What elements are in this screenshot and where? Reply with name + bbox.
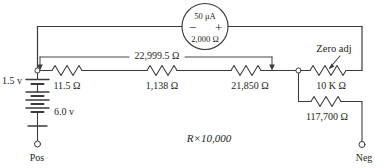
span-arrow-right — [269, 65, 275, 71]
meter-negative-sign: − — [189, 21, 196, 34]
terminal-neg-circle — [359, 142, 365, 148]
terminal-neg-label: Neg — [356, 153, 373, 163]
battery-6v-label: 6.0 v — [54, 107, 74, 117]
battery-1p5v-label: 1.5 v — [2, 76, 22, 86]
circuit-diagram-figure: 50 μA − + 2,000 Ω 22,999.5 Ω 1.5 v 6.0 v… — [0, 0, 387, 168]
resistor-21850-label: 21,850 Ω — [231, 81, 268, 91]
potentiometer-10k-label: 10 K Ω — [316, 81, 346, 91]
potentiometer-10k-symbol — [310, 66, 346, 76]
resistor-11-5-label: 11.5 Ω — [53, 81, 80, 91]
potentiometer-wiper-arrowhead — [329, 63, 335, 69]
terminal-pos-label: Pos — [30, 153, 44, 163]
span-total-resistance-label: 22,999.5 Ω — [135, 51, 180, 61]
resistor-21850-symbol — [231, 66, 261, 76]
resistor-11-5-symbol — [52, 66, 82, 76]
meter-current-label: 50 μA — [194, 12, 215, 21]
resistor-117700-label: 117,700 Ω — [306, 112, 348, 122]
junction-node-right — [296, 68, 301, 73]
resistor-1138-symbol — [147, 66, 177, 76]
meter-resistance-label: 2,000 Ω — [191, 35, 219, 44]
terminal-pos-circle — [35, 141, 41, 147]
junction-node-left — [35, 68, 40, 73]
range-multiplier-label: R×10,000 — [187, 133, 231, 144]
zero-adj-label: Zero adj — [316, 44, 351, 55]
resistor-117700-symbol — [311, 97, 341, 107]
meter-positive-sign: + — [215, 21, 222, 34]
resistor-1138-label: 1,138 Ω — [146, 81, 178, 91]
